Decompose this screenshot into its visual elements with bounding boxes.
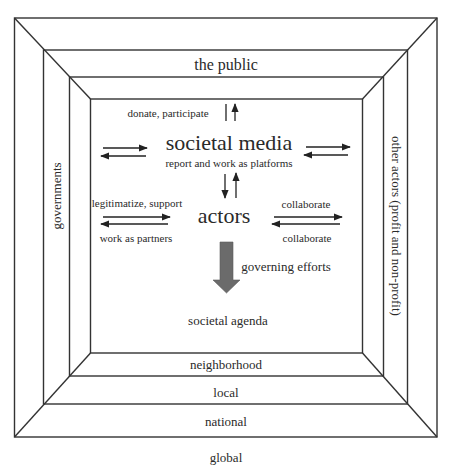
label-neighborhood: neighborhood bbox=[190, 358, 262, 371]
label-local: local bbox=[213, 386, 238, 399]
label-governing-efforts: governing efforts bbox=[241, 260, 331, 273]
label-report-platforms: report and work as platforms bbox=[165, 158, 292, 169]
label-national: national bbox=[205, 415, 247, 428]
diagonal-bottom-left bbox=[15, 353, 91, 437]
label-global: global bbox=[210, 451, 243, 464]
diagonal-bottom-right bbox=[363, 353, 438, 437]
label-donate-participate: donate, participate bbox=[127, 108, 208, 119]
label-collaborate-top: collaborate bbox=[282, 199, 331, 210]
label-legitimatize-support: legitimatize, support bbox=[92, 198, 182, 209]
label-collaborate-bottom: collaborate bbox=[283, 233, 332, 244]
label-work-as-partners: work as partners bbox=[100, 233, 173, 244]
label-other-actors: other actors (profit and non-profit) bbox=[390, 136, 403, 316]
label-societal-media: societal media bbox=[166, 132, 292, 154]
label-societal-agenda: societal agenda bbox=[188, 314, 268, 327]
governance-diagram: the public governments other actors (pro… bbox=[0, 0, 453, 472]
label-the-public: the public bbox=[194, 57, 258, 73]
governing-efforts-arrow bbox=[213, 242, 240, 293]
diagonal-top-left bbox=[15, 18, 91, 99]
diagonal-top-right bbox=[363, 18, 438, 99]
label-actors: actors bbox=[198, 205, 251, 227]
label-governments: governments bbox=[50, 162, 63, 229]
